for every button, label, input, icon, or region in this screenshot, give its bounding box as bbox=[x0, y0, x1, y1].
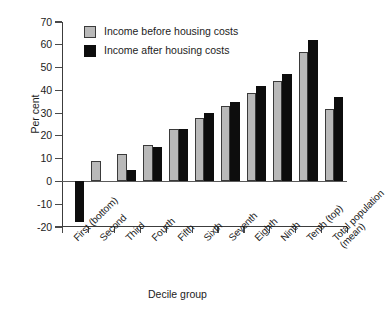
y-axis-tick bbox=[55, 90, 62, 91]
bar-before-housing-costs bbox=[221, 106, 230, 181]
bar-before-housing-costs bbox=[299, 52, 308, 182]
bar-after-housing-costs bbox=[127, 170, 136, 181]
legend-label: Income before housing costs bbox=[104, 26, 238, 37]
bar-after-housing-costs bbox=[179, 129, 188, 181]
bar-after-housing-costs bbox=[153, 147, 162, 181]
y-axis-tick bbox=[55, 204, 62, 205]
bar-before-housing-costs bbox=[195, 118, 204, 182]
bar-before-housing-costs bbox=[91, 161, 100, 182]
bar-before-housing-costs bbox=[325, 109, 334, 182]
x-axis-title: Decile group bbox=[148, 288, 207, 300]
x-axis-tick bbox=[62, 227, 63, 233]
bar-before-housing-costs bbox=[169, 129, 178, 181]
bar-group bbox=[321, 22, 347, 227]
bar-before-housing-costs bbox=[143, 145, 152, 181]
y-axis-title: Per cent bbox=[29, 69, 41, 159]
bar-after-housing-costs bbox=[282, 74, 291, 181]
bar-after-housing-costs bbox=[256, 86, 265, 182]
bar-chart: Per cent -20-10010203040506070 First (bo… bbox=[0, 0, 389, 315]
bar-before-housing-costs bbox=[247, 93, 256, 182]
bar-after-housing-costs bbox=[75, 181, 84, 222]
bar-after-housing-costs bbox=[204, 113, 213, 181]
y-axis-tick-label: 60 bbox=[41, 39, 52, 50]
y-axis-tick bbox=[55, 44, 62, 45]
chart-legend: Income before housing costsIncome after … bbox=[84, 23, 238, 61]
y-axis-tick-label: 50 bbox=[41, 62, 52, 73]
y-axis-tick-label: 20 bbox=[41, 130, 52, 141]
bar-after-housing-costs bbox=[230, 102, 239, 182]
y-axis-tick bbox=[55, 181, 62, 182]
y-axis-tick-label: 0 bbox=[46, 176, 52, 187]
legend-item: Income before housing costs bbox=[84, 23, 238, 40]
y-axis-tick-label: -10 bbox=[37, 199, 52, 210]
legend-label: Income after housing costs bbox=[104, 45, 229, 56]
legend-swatch-after bbox=[84, 45, 96, 57]
y-axis-tick bbox=[55, 113, 62, 114]
y-axis-tick-label: 70 bbox=[41, 17, 52, 28]
bar-before-housing-costs bbox=[273, 81, 282, 181]
bar-group bbox=[243, 22, 269, 227]
y-axis-tick-label: 30 bbox=[41, 108, 52, 119]
bar-group bbox=[269, 22, 295, 227]
legend-item: Income after housing costs bbox=[84, 42, 238, 59]
y-axis-tick bbox=[55, 226, 62, 227]
y-axis-tick-label: -20 bbox=[37, 222, 52, 233]
bar-group bbox=[295, 22, 321, 227]
y-axis-tick-label: 10 bbox=[41, 153, 52, 164]
y-axis-tick bbox=[55, 158, 62, 159]
legend-swatch-before bbox=[84, 26, 96, 38]
y-axis-tick bbox=[55, 67, 62, 68]
bar-before-housing-costs bbox=[117, 154, 126, 181]
bar-after-housing-costs bbox=[334, 97, 343, 181]
y-axis-tick bbox=[55, 135, 62, 136]
y-axis-tick bbox=[55, 21, 62, 22]
y-axis-tick-label: 40 bbox=[41, 85, 52, 96]
bar-after-housing-costs bbox=[308, 40, 317, 181]
